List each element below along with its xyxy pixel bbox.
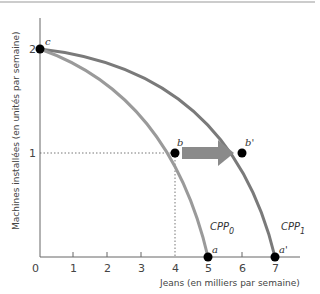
label-b: b — [177, 137, 183, 148]
ppf-chart: c b b' a a' CPP0 CPP1 0 1 2 3 4 5 6 7 1 … — [0, 0, 320, 294]
y-axis-title: Machines installées (en unités par semai… — [11, 32, 21, 230]
tick-x7: 7 — [272, 262, 279, 275]
tick-x3: 3 — [138, 262, 145, 275]
label-c: c — [45, 36, 51, 47]
label-cpp0: CPP0 — [210, 221, 234, 236]
tick-x6: 6 — [239, 262, 246, 275]
tick-x5: 5 — [205, 262, 212, 275]
point-c — [36, 45, 45, 54]
point-b — [171, 149, 180, 158]
tick-x2: 2 — [104, 262, 111, 275]
tick-y1: 1 — [29, 147, 36, 160]
tick-y2: 2 — [29, 43, 36, 56]
point-b-prime — [238, 149, 247, 158]
tick-x1: 1 — [70, 262, 77, 275]
tick-0: 0 — [32, 262, 39, 275]
label-a-prime: a' — [279, 244, 288, 255]
shift-arrow — [182, 140, 234, 166]
label-cpp1: CPP1 — [281, 221, 305, 236]
label-b-prime: b' — [245, 137, 254, 148]
tick-x4: 4 — [172, 262, 179, 275]
label-a: a — [212, 244, 218, 255]
x-axis-title: Jeans (en milliers par semaine) — [159, 278, 300, 288]
